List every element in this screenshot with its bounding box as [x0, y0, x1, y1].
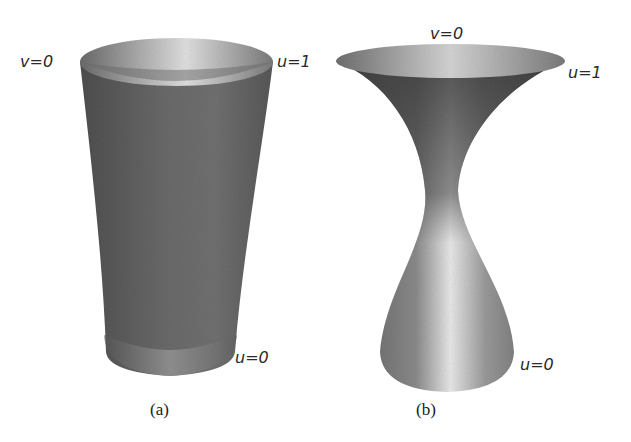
caption-b: (b)	[416, 400, 436, 420]
label-a-u1: u=1	[277, 52, 311, 71]
label-b-u1: u=1	[568, 63, 602, 82]
label-a-u0: u=0	[235, 348, 269, 367]
caption-a: (a)	[150, 400, 169, 420]
panel-b-surface	[336, 44, 565, 392]
label-b-u0: u=0	[520, 355, 554, 374]
label-a-v0: v=0	[20, 52, 53, 71]
label-b-v0: v=0	[430, 24, 463, 43]
figure-canvas	[0, 0, 631, 442]
panel-a-surface	[80, 38, 273, 376]
